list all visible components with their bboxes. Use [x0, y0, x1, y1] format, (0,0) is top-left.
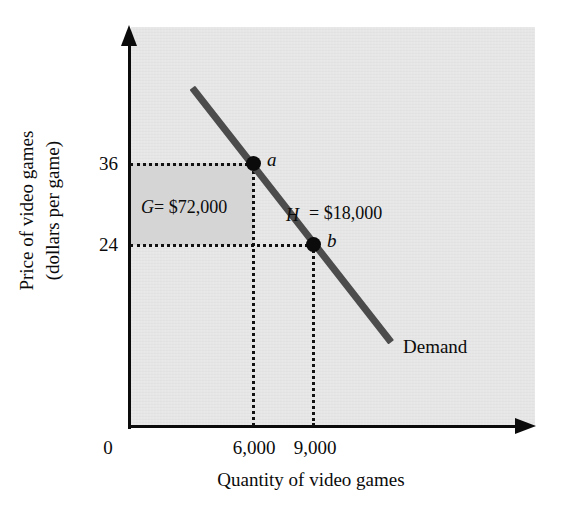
- x-tick-label-0: 0: [103, 438, 113, 457]
- y-axis-up-arrow-icon: [121, 25, 137, 46]
- guideline-price-24: [130, 244, 314, 247]
- guideline-quantity-9000: [312, 245, 315, 426]
- data-point-a: [246, 156, 261, 171]
- area-h-value-annotation: = $18,000: [309, 204, 382, 222]
- demand-curve-figure: a b G= $72,000 H = $18,000 Demand 36 24 …: [0, 0, 564, 506]
- y-axis-line: [128, 40, 131, 429]
- x-axis-title: Quantity of video games: [0, 470, 564, 489]
- y-axis-title-line-1: Price of video games: [14, 61, 40, 361]
- y-axis-title-line-2: (dollars per game): [40, 61, 66, 361]
- guideline-quantity-6000: [252, 164, 255, 426]
- x-tick-label-9000: 9,000: [294, 438, 337, 457]
- area-g-symbol: G: [141, 197, 154, 217]
- guideline-price-36: [130, 163, 254, 166]
- x-axis-right-arrow-icon: [515, 418, 536, 434]
- area-h-symbol-annotation: H: [286, 206, 299, 224]
- area-g-value: = $72,000: [154, 197, 227, 217]
- y-tick-label-24: 24: [78, 235, 118, 254]
- data-point-b: [306, 237, 321, 252]
- data-point-b-label: b: [327, 231, 337, 250]
- data-point-a-label: a: [267, 150, 277, 169]
- y-axis-title: Price of video games (dollars per game): [14, 61, 65, 361]
- x-tick-label-6000: 6,000: [233, 438, 276, 457]
- x-axis-line: [128, 425, 520, 428]
- y-tick-label-36: 36: [78, 154, 118, 173]
- demand-curve-label: Demand: [403, 337, 467, 356]
- area-h-symbol: H: [286, 205, 299, 225]
- area-g-annotation: G= $72,000: [141, 198, 227, 216]
